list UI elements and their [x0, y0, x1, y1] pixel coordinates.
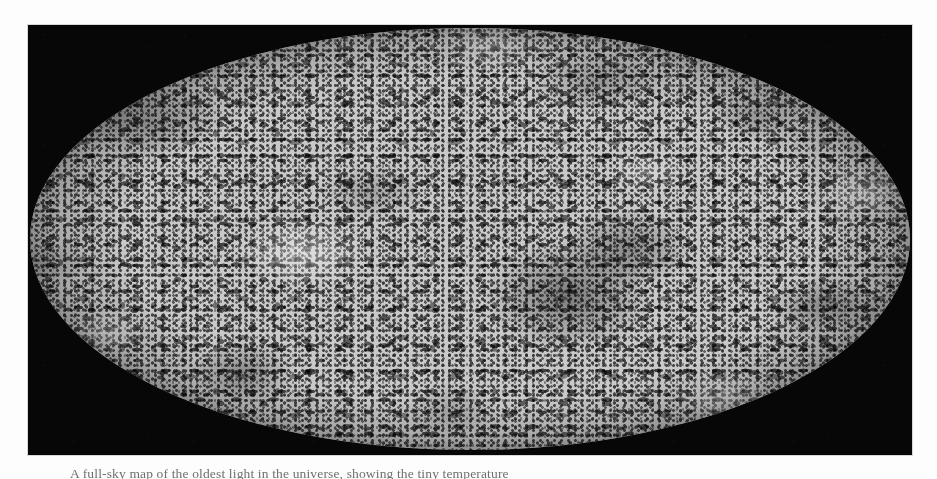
figure-caption: A full-sky map of the oldest light in th… [70, 466, 877, 479]
cmb-hot-spot-layer [30, 28, 910, 450]
figure-plate [28, 25, 912, 455]
scanned-page: A full-sky map of the oldest light in th… [0, 0, 937, 479]
cmb-sky-map [30, 28, 910, 450]
